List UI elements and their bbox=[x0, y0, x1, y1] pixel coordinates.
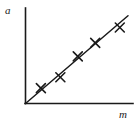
data-point-marker bbox=[91, 38, 100, 47]
plot-canvas bbox=[0, 0, 139, 124]
data-point-marker bbox=[115, 23, 124, 32]
scatter-plot-figure: a m bbox=[0, 0, 139, 124]
y-axis-label: a bbox=[5, 5, 11, 16]
x-axis-label: m bbox=[119, 109, 127, 120]
best-fit-line bbox=[26, 16, 129, 104]
fit-line bbox=[26, 16, 129, 104]
